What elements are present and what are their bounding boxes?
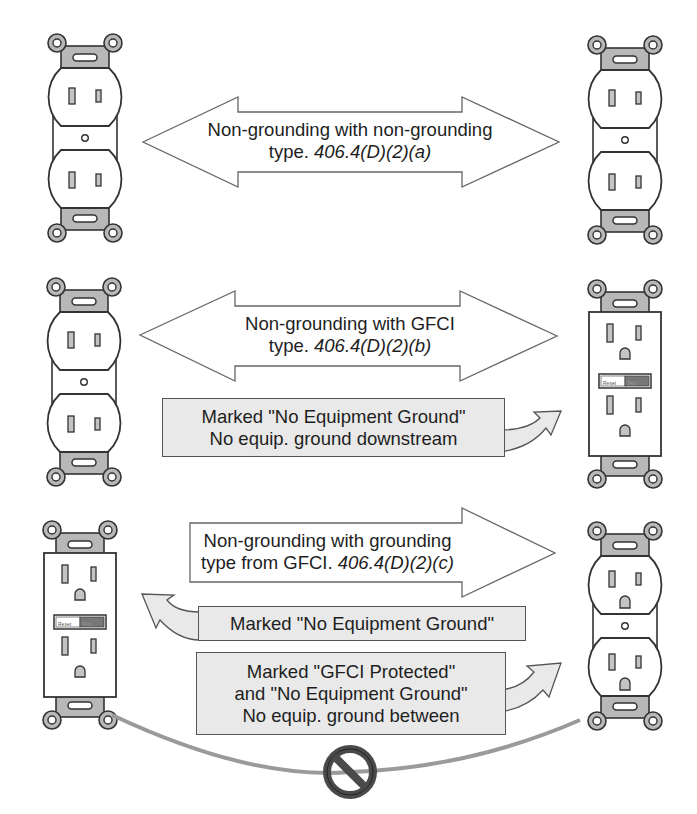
note-row-c2-line3: No equip. ground between bbox=[197, 705, 505, 727]
row-c-line2: type from GFCI. 406.4(D)(2)(c) bbox=[190, 552, 465, 574]
gfci-reset-button-row-c: Reset bbox=[58, 621, 71, 627]
note-arrow-left-row-c bbox=[142, 594, 200, 640]
note-box-row-b: Marked "No Equipment Ground" No equip. g… bbox=[162, 398, 505, 457]
row-a-line2: type. 406.4(D)(2)(a) bbox=[170, 141, 530, 163]
row-c-code-ref: 406.4(D)(2)(c) bbox=[338, 552, 454, 573]
left-outlet-row-a bbox=[48, 34, 122, 242]
row-b-line2: type. 406.4(D)(2)(b) bbox=[170, 335, 530, 357]
gfci-test-button-row-b: Test bbox=[627, 380, 636, 386]
right-outlet-row-c-grounding bbox=[588, 522, 662, 730]
right-outlet-row-a bbox=[588, 36, 662, 244]
note-row-b-line2: No equip. ground downstream bbox=[163, 428, 504, 450]
note-arrow-row-b bbox=[500, 411, 561, 452]
row-c-line1: Non-grounding with grounding bbox=[190, 530, 465, 552]
row-a-line1: Non-grounding with non-grounding bbox=[170, 119, 530, 141]
row-a-code-ref: 406.4(D)(2)(a) bbox=[314, 141, 431, 162]
note-box-row-c-1: Marked "No Equipment Ground" bbox=[198, 606, 526, 641]
right-outlet-row-b-gfci bbox=[588, 280, 662, 488]
row-b-label: Non-grounding with GFCI type. 406.4(D)(2… bbox=[170, 313, 530, 357]
left-outlet-row-c-gfci bbox=[43, 521, 117, 729]
row-a-label: Non-grounding with non-grounding type. 4… bbox=[170, 119, 530, 163]
note-row-b-line1: Marked "No Equipment Ground" bbox=[163, 406, 504, 428]
note-row-c2-line1: Marked "GFCI Protected" bbox=[197, 661, 505, 683]
row-b-code-ref: 406.4(D)(2)(b) bbox=[314, 335, 431, 356]
row-c-label: Non-grounding with grounding type from G… bbox=[190, 530, 465, 574]
gfci-test-button-row-c: Test bbox=[82, 621, 91, 627]
gfci-reset-button-row-b: Reset bbox=[603, 380, 616, 386]
note-arrow-right-row-c bbox=[500, 663, 561, 712]
left-outlet-row-b bbox=[47, 278, 121, 486]
note-row-c2-line2: and "No Equipment Ground" bbox=[197, 683, 505, 705]
row-b-line1: Non-grounding with GFCI bbox=[170, 313, 530, 335]
note-box-row-c-2: Marked "GFCI Protected" and "No Equipmen… bbox=[196, 652, 506, 735]
note-row-c1-line1: Marked "No Equipment Ground" bbox=[199, 613, 525, 635]
